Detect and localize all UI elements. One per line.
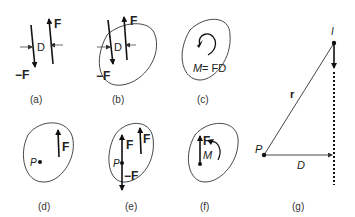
- panel-a: D F −F (a): [15, 17, 63, 105]
- rigid-body-outline: [188, 123, 238, 182]
- caption-d: (d): [38, 201, 50, 212]
- point-p: [120, 161, 124, 165]
- caption-c: (c): [197, 94, 209, 105]
- distance-label: D: [37, 41, 45, 53]
- moment-arc: [199, 34, 215, 55]
- distance-label: D: [114, 41, 122, 53]
- force-down-arrow: [31, 25, 35, 67]
- panel-e: P F −F F (e): [109, 123, 154, 212]
- force-at-p-label: F: [126, 138, 133, 152]
- force-couple-diagram: D F −F (a) D F −F (b) M = FD (c) F P (d): [0, 0, 355, 217]
- point-label: P: [30, 157, 37, 168]
- caption-f: (f): [200, 201, 209, 212]
- neg-force-label: −F: [124, 169, 138, 183]
- force-label: F: [130, 14, 137, 28]
- point-label: P: [113, 158, 120, 169]
- distance-label: D: [297, 159, 305, 171]
- point-label: P: [255, 143, 263, 155]
- force-label: F: [54, 17, 61, 31]
- radius-line: [264, 43, 334, 155]
- panel-f: F M (f): [188, 123, 238, 212]
- force-up-arrow: [49, 19, 53, 64]
- point: [198, 162, 202, 166]
- panel-g: I r P D (g): [255, 26, 336, 212]
- point-p: [262, 153, 266, 157]
- force-down-arrow: [108, 20, 113, 64]
- radius-label: r: [290, 88, 295, 100]
- neg-force-label: −F: [96, 69, 110, 83]
- panel-d: F P (d): [23, 123, 73, 212]
- force-label: F: [143, 132, 150, 146]
- panel-c: M = FD (c): [182, 19, 230, 105]
- moment-equation: = FD: [202, 62, 226, 74]
- force-arrow: [140, 128, 141, 154]
- caption-b: (b): [112, 94, 124, 105]
- point-p: [38, 160, 42, 164]
- neg-force-label: −F: [15, 68, 29, 82]
- caption-e: (e): [125, 201, 137, 212]
- impulse-point: [332, 41, 336, 45]
- force-up-arrow: [124, 17, 127, 60]
- impulse-label: I: [331, 26, 334, 37]
- panel-b: D F −F (b): [96, 14, 157, 105]
- force-arrow: [58, 130, 59, 157]
- caption-g: (g): [292, 201, 304, 212]
- moment-label: M: [203, 149, 213, 161]
- force-label: F: [62, 140, 69, 154]
- caption-a: (a): [30, 94, 42, 105]
